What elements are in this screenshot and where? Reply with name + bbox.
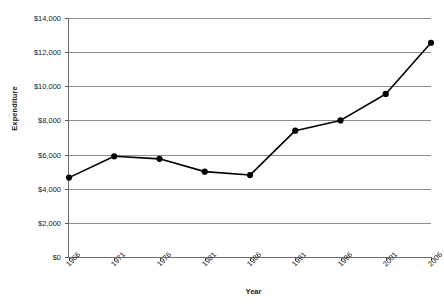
x-tick-label: 2006 [426, 250, 444, 268]
x-tick-label: 1981 [200, 250, 218, 268]
x-tick-label: 1986 [245, 250, 263, 268]
x-tick-label: 1971 [109, 250, 127, 268]
x-tick-label: 1991 [290, 250, 308, 268]
x-tick-label: 2001 [381, 250, 399, 268]
x-axis-title: Year [0, 287, 439, 296]
x-tick-label: 1976 [155, 250, 173, 268]
x-tick-label: 1966 [64, 250, 82, 268]
x-tick-label: 1996 [336, 250, 354, 268]
